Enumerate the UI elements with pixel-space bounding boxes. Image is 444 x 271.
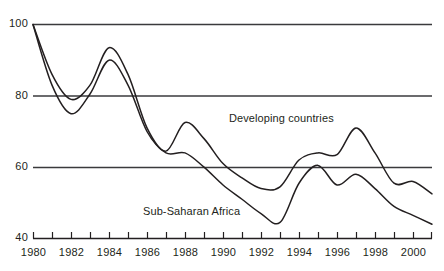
- chart-plot-area: [0, 0, 444, 271]
- x-tick-label-1994: 1994: [279, 246, 320, 258]
- gridlines: [33, 25, 432, 168]
- y-tick-label-40: 40: [2, 231, 28, 243]
- x-tick-label-1992: 1992: [241, 246, 282, 258]
- x-tick-label-1990: 1990: [203, 246, 244, 258]
- x-tick-label-1986: 1986: [127, 246, 168, 258]
- series-lines: [33, 25, 432, 225]
- x-tick-label-2000: 2000: [393, 246, 434, 258]
- x-tick-label-1998: 1998: [355, 246, 396, 258]
- series-annotation-developing-countries: Developing countries: [229, 112, 334, 124]
- x-tick-label-1988: 1988: [165, 246, 206, 258]
- x-tick-label-1996: 1996: [317, 246, 358, 258]
- y-tick-label-80: 80: [2, 89, 28, 101]
- x-tick-label-1980: 1980: [13, 246, 54, 258]
- y-tick-label-60: 60: [2, 160, 28, 172]
- series-line-sub-saharan-africa: [33, 25, 432, 225]
- chart-container: 100 80 60 40 1980 1982 1984 1986 1988 19…: [0, 0, 444, 271]
- series-line-developing-countries: [33, 25, 432, 194]
- series-annotation-sub-saharan-africa: Sub-Saharan Africa: [143, 205, 240, 217]
- y-tick-label-100: 100: [2, 17, 28, 29]
- x-axis: [33, 232, 432, 239]
- x-axis-ticks: [34, 232, 432, 239]
- x-tick-label-1984: 1984: [89, 246, 130, 258]
- x-tick-label-1982: 1982: [51, 246, 92, 258]
